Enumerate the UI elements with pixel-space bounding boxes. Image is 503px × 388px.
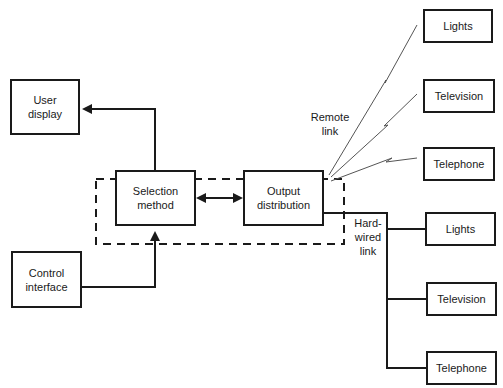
wireless-link-lights [329, 25, 417, 175]
selection-method-box: Selection method [115, 170, 196, 226]
user-display-box: User display [10, 79, 80, 135]
remote-television-box: Television [423, 79, 495, 113]
wired-television-box: Television [426, 282, 497, 316]
wired-telephone-box: Telephone [426, 351, 497, 385]
remote-link-label: Remote link [300, 110, 360, 138]
arrow-to-user-display [84, 109, 155, 171]
hard-wired-link-label: Hard- wired link [350, 216, 386, 258]
arrow-to-selection [82, 233, 155, 287]
remote-lights-box: Lights [423, 9, 493, 43]
output-distribution-box: Output distribution [243, 170, 324, 226]
remote-telephone-box: Telephone [423, 147, 495, 181]
wired-lights-box: Lights [425, 212, 496, 246]
wireless-link-telephone [331, 158, 417, 181]
control-interface-box: Control interface [11, 251, 82, 308]
